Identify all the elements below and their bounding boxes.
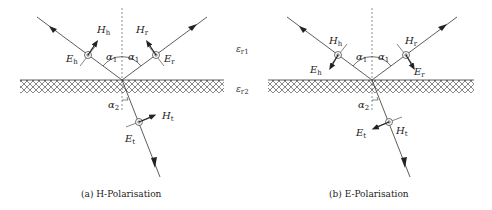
label-E-transmitted: Et bbox=[124, 133, 135, 146]
interface-hatch bbox=[268, 80, 474, 93]
polarisation-figure: Hh Eh Hr Er α1 α1 α2 Ht Et (a) H-Polaris… bbox=[0, 0, 492, 210]
label-H-reflected: Hr bbox=[135, 24, 149, 37]
label-E-transmitted: Et bbox=[355, 127, 366, 140]
angle-arc-alpha2 bbox=[122, 97, 128, 100]
label-epsilon-r2: εr2 bbox=[236, 84, 249, 96]
caption-a: (a) H-Polarisation bbox=[81, 189, 162, 199]
label-H-incident: Hh bbox=[328, 35, 343, 48]
label-epsilon-r1: εr1 bbox=[236, 44, 249, 56]
label-H-transmitted: Ht bbox=[161, 110, 174, 123]
label-H-transmitted: Ht bbox=[395, 125, 408, 138]
label-E-reflected: Er bbox=[163, 53, 175, 66]
reflected-H-arrow-icon bbox=[148, 43, 156, 55]
angle-arc-alpha2 bbox=[372, 97, 378, 100]
label-alpha2: α2 bbox=[358, 99, 369, 112]
incident-E-arrow-icon bbox=[331, 55, 338, 67]
caption-b: (b) E-Polarisation bbox=[329, 189, 409, 199]
label-alpha1-reflected: α1 bbox=[128, 51, 139, 64]
label-alpha1-reflected: α1 bbox=[378, 51, 389, 64]
label-E-reflected: Er bbox=[413, 66, 425, 79]
label-H-incident: Hh bbox=[96, 24, 111, 37]
incident-H-arrow-icon bbox=[88, 43, 96, 55]
label-alpha1-incident: α1 bbox=[356, 51, 367, 64]
label-E-incident: Eh bbox=[309, 64, 322, 77]
label-E-incident: Eh bbox=[65, 53, 78, 66]
reflected-E-arrow-icon bbox=[406, 55, 413, 67]
panel-e-polarisation: Hh Eh Hr Er α1 α1 α2 Ht Et (b) E-Polaris… bbox=[268, 8, 474, 199]
incident-arrow-icon bbox=[299, 26, 307, 33]
label-alpha1-incident: α1 bbox=[106, 51, 117, 64]
label-H-reflected: Hr bbox=[404, 35, 418, 48]
incident-arrow-icon bbox=[49, 26, 57, 33]
panel-h-polarisation: Hh Eh Hr Er α1 α1 α2 Ht Et (a) H-Polaris… bbox=[20, 8, 224, 199]
label-alpha2: α2 bbox=[108, 99, 119, 112]
